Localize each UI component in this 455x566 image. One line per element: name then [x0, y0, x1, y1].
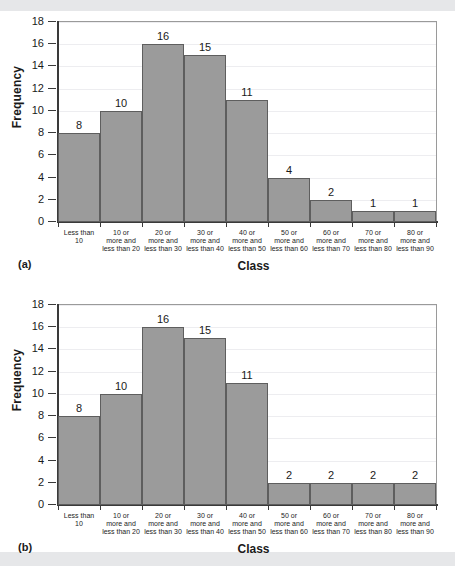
x-axis-category-label: 20 ormore andless than 30 [142, 512, 184, 537]
x-axis-category-label: 80 ormore andless than 90 [394, 229, 436, 254]
x-axis-tick [226, 505, 227, 510]
histogram-bar[interactable] [100, 394, 142, 505]
y-axis-tick-label: 10 [18, 105, 44, 116]
y-axis-tick [48, 415, 56, 416]
panel-label-b: (b) [18, 541, 32, 553]
x-axis-tick [58, 505, 59, 510]
y-axis-tick-label: 18 [18, 16, 44, 27]
bar-value-label: 2 [352, 470, 394, 481]
histogram-bar[interactable] [184, 338, 226, 505]
y-axis-tick [48, 21, 56, 22]
y-axis-tick-label: 2 [18, 477, 44, 488]
bar-value-label: 1 [394, 198, 436, 209]
bar-value-label: 11 [226, 87, 268, 98]
y-axis-tick [48, 88, 56, 89]
histogram-bar[interactable] [58, 416, 100, 505]
x-axis-category-label: Less than10 [58, 512, 100, 528]
x-axis-tick [394, 222, 395, 227]
x-axis-category-label: 70 ormore andless than 80 [352, 512, 394, 537]
x-axis-tick [226, 222, 227, 227]
y-axis-tick [48, 199, 56, 200]
bar-value-label: 16 [142, 31, 184, 42]
x-axis-category-label: 40 ormore andless than 50 [226, 229, 268, 254]
panel-label-a: (a) [18, 258, 31, 270]
bar-value-label: 11 [226, 370, 268, 381]
histogram-bar[interactable] [58, 133, 100, 222]
histogram-bar[interactable] [226, 100, 268, 222]
histogram-bar[interactable] [184, 55, 226, 222]
y-axis-tick-label: 0 [18, 499, 44, 510]
y-axis-tick-label: 16 [18, 321, 44, 332]
y-axis-tick-label: 0 [18, 216, 44, 227]
y-axis-tick [48, 460, 56, 461]
y-axis-tick-label: 14 [18, 60, 44, 71]
x-axis-tick [436, 505, 437, 510]
histogram-bar[interactable] [268, 178, 310, 222]
y-axis-tick [48, 348, 56, 349]
y-axis-tick-label: 8 [18, 410, 44, 421]
x-axis-tick [394, 505, 395, 510]
bar-group-a: 8101615114211 [58, 22, 436, 222]
x-axis-category-label: 30 ormore andless than 40 [184, 229, 226, 254]
y-axis-tick [48, 110, 56, 111]
histogram-bar[interactable] [310, 483, 352, 505]
bar-value-label: 16 [142, 314, 184, 325]
y-axis-tick-label: 14 [18, 343, 44, 354]
y-axis-tick [48, 393, 56, 394]
x-axis-title-a: Class [0, 259, 455, 273]
y-axis-tick-label: 6 [18, 149, 44, 160]
x-axis-category-label: 10 ormore andless than 20 [100, 512, 142, 537]
y-axis-tick [48, 504, 56, 505]
bar-value-label: 4 [268, 165, 310, 176]
histogram-bar[interactable] [142, 327, 184, 505]
y-axis-tick-label: 12 [18, 83, 44, 94]
y-axis-tick [48, 43, 56, 44]
y-axis-tick [48, 132, 56, 133]
histogram-bar[interactable] [352, 211, 394, 222]
bar-value-label: 2 [310, 187, 352, 198]
y-axis-tick-label: 10 [18, 388, 44, 399]
histogram-bar[interactable] [310, 200, 352, 222]
x-axis-tick [268, 222, 269, 227]
histogram-panel-b: Frequency 8101615112222 Class (b) 024681… [0, 283, 455, 566]
bar-value-label: 15 [184, 325, 226, 336]
y-axis-tick [48, 177, 56, 178]
y-axis-tick [48, 371, 56, 372]
x-axis-tick [436, 222, 437, 227]
y-axis-tick-label: 16 [18, 38, 44, 49]
x-axis-tick [352, 222, 353, 227]
x-axis-category-label: 30 ormore andless than 40 [184, 512, 226, 537]
y-axis-tick-label: 2 [18, 194, 44, 205]
y-axis-tick [48, 326, 56, 327]
x-axis-tick [310, 505, 311, 510]
bar-value-label: 8 [58, 120, 100, 131]
x-axis-tick [352, 505, 353, 510]
y-axis-tick-label: 6 [18, 432, 44, 443]
y-axis-tick [48, 482, 56, 483]
bar-value-label: 2 [268, 470, 310, 481]
x-axis-category-label: 60 ormore andless than 70 [310, 229, 352, 254]
y-axis-tick-label: 8 [18, 127, 44, 138]
x-axis-tick [142, 222, 143, 227]
y-axis-tick [48, 154, 56, 155]
histogram-bar[interactable] [352, 483, 394, 505]
x-axis-tick [268, 505, 269, 510]
y-axis-tick [48, 221, 56, 222]
x-axis-category-label: 80 ormore andless than 90 [394, 512, 436, 537]
histogram-bar[interactable] [268, 483, 310, 505]
histogram-bar[interactable] [100, 111, 142, 222]
histogram-bar[interactable] [394, 483, 436, 505]
y-axis-tick-label: 18 [18, 299, 44, 310]
x-axis-category-label: 50 ormore andless than 60 [268, 512, 310, 537]
x-axis-category-label: 20 ormore andless than 30 [142, 229, 184, 254]
bar-value-label: 8 [58, 403, 100, 414]
histogram-bar[interactable] [226, 383, 268, 505]
bar-value-label: 2 [394, 470, 436, 481]
histogram-bar[interactable] [142, 44, 184, 222]
x-axis-category-label: Less than10 [58, 229, 100, 245]
bar-value-label: 10 [100, 98, 142, 109]
histogram-bar[interactable] [394, 211, 436, 222]
y-axis-tick [48, 304, 56, 305]
y-axis-tick-label: 12 [18, 366, 44, 377]
bar-value-label: 15 [184, 42, 226, 53]
